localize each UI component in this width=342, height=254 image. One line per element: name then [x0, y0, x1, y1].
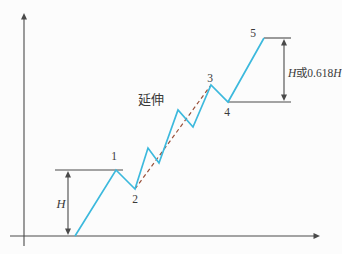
height-H-arrow-bottom-arrowhead: [65, 229, 71, 236]
elliott-wave-path: [75, 38, 264, 236]
height-H618-label: H或0.618H: [287, 67, 342, 79]
x-axis-arrowhead: [314, 233, 321, 239]
extension-label: 延伸: [138, 92, 164, 107]
wave-extension-figure: 12345延伸HH或0.618H: [0, 0, 342, 254]
point-label-2: 2: [132, 193, 138, 205]
point-label-3: 3: [207, 72, 213, 84]
wave-extension-chart: 12345延伸HH或0.618H: [0, 0, 342, 254]
height-H-arrow-top-arrowhead: [65, 171, 71, 178]
point-label-5: 5: [250, 27, 256, 39]
y-axis-arrowhead: [21, 13, 27, 20]
point-label-1: 1: [111, 150, 117, 162]
height-H-label: H: [55, 197, 66, 211]
height-H618-arrow-top-arrowhead: [281, 39, 287, 46]
height-H618-arrow-bottom-arrowhead: [281, 95, 287, 102]
point-label-4: 4: [224, 106, 230, 118]
